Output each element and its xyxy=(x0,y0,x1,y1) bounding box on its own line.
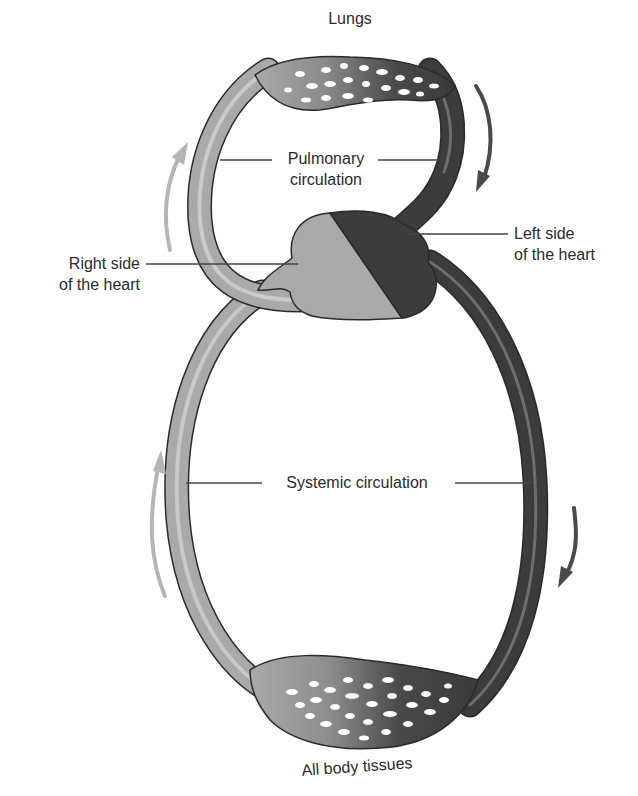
label-right-side-heart: Right side of the heart xyxy=(30,253,140,295)
label-systemic-circulation: Systemic circulation xyxy=(262,472,452,493)
arrow-pulmonary-up xyxy=(166,142,188,250)
label-right-heart-line1: Right side xyxy=(30,253,140,274)
label-lungs: Lungs xyxy=(310,8,390,29)
systemic-vein-left xyxy=(177,292,290,700)
circulation-diagram xyxy=(0,0,638,796)
arrow-systemic-down xyxy=(558,508,576,588)
arrow-pulmonary-down xyxy=(476,86,491,192)
label-pulmonary-circulation: Pulmonary circulation xyxy=(266,148,386,190)
label-pulmonary-line2: circulation xyxy=(266,169,386,190)
label-left-heart-line1: Left side xyxy=(514,223,634,244)
label-left-heart-line2: of the heart xyxy=(514,244,634,265)
label-right-heart-line2: of the heart xyxy=(30,274,140,295)
label-pulmonary-line1: Pulmonary xyxy=(266,148,386,169)
label-left-side-heart: Left side of the heart xyxy=(514,223,634,265)
body-tissues-capillary-bed xyxy=(250,656,478,749)
arrow-systemic-up xyxy=(152,450,166,596)
